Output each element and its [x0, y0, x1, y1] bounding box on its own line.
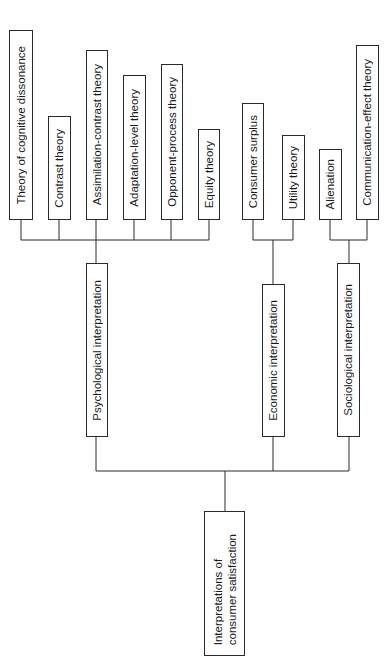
- node-adaptation-level-theory: Adaptation-level theory: [123, 75, 146, 220]
- node-label: Contrast theory: [53, 129, 66, 208]
- node-label: Opponent-process theory: [166, 77, 179, 207]
- node-equity-theory: Equity theory: [198, 129, 220, 220]
- node-contrast-theory: Contrast theory: [48, 116, 71, 220]
- node-label: Communication-effect theory: [361, 59, 374, 206]
- node-label: Utility theory: [287, 146, 300, 209]
- node-sociological-interpretation: Sociological interpretation: [337, 263, 360, 437]
- node-label: Sociological interpretation: [342, 284, 355, 416]
- node-label: Psychological interpretation: [91, 280, 104, 421]
- node-label: Alienation: [324, 159, 337, 210]
- node-label: Consumer surplus: [247, 115, 260, 208]
- node-economic-interpretation: Economic interpretation: [262, 284, 285, 437]
- node-opponent-process-theory: Opponent-process theory: [161, 64, 183, 220]
- node-communication-effect-theory: Communication-effect theory: [356, 45, 379, 220]
- node-label: Adaptation-level theory: [128, 89, 141, 207]
- node-psychological-interpretation: Psychological interpretation: [86, 263, 108, 437]
- node-consumer-surplus: Consumer surplus: [242, 103, 264, 220]
- node-label: Equity theory: [203, 141, 216, 208]
- node-label: Assimilation-contrast theory: [91, 64, 104, 205]
- node-theory-cognitive-dissonance: Theory of cognitive dissonance: [9, 30, 33, 220]
- root-label: Interpretations of consumer satisfaction: [211, 534, 239, 645]
- node-assimilation-contrast-theory: Assimilation-contrast theory: [86, 50, 108, 220]
- node-label: Economic interpretation: [267, 300, 280, 421]
- node-label: Theory of cognitive dissonance: [15, 46, 28, 205]
- node-alienation: Alienation: [319, 149, 342, 220]
- node-utility-theory: Utility theory: [282, 135, 305, 220]
- node-root-interpretations: Interpretations of consumer satisfaction: [204, 511, 245, 656]
